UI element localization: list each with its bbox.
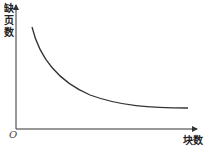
y-axis-label: 缺 页 数 [3,3,15,39]
page-fault-curve [32,27,188,108]
y-label-char: 页 [3,15,15,27]
y-label-char: 缺 [3,3,15,15]
origin-label: O [9,129,17,140]
y-label-char: 数 [3,27,15,39]
x-axis-label: 块数 [183,132,203,147]
chart-canvas [0,0,207,147]
